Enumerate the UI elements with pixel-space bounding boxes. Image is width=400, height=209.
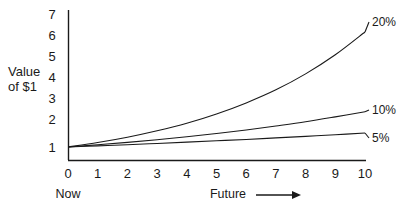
x-tick-label: 4 bbox=[183, 166, 190, 181]
y-tick-label: 3 bbox=[48, 91, 55, 106]
y-axis-title-line2: of $1 bbox=[8, 79, 37, 94]
x-tick-label: 1 bbox=[94, 166, 101, 181]
x-tick-label: 2 bbox=[124, 166, 131, 181]
y-tick-label: 4 bbox=[48, 70, 55, 85]
now-annotation: Now bbox=[55, 187, 81, 201]
chart-figure: Value of $1 7 6 5 4 3 2 1 0 1 2 3 4 5 6 … bbox=[0, 0, 400, 209]
x-tick-label: 0 bbox=[64, 166, 71, 181]
y-tick-label: 5 bbox=[48, 49, 55, 64]
x-tick-label: 7 bbox=[272, 166, 279, 181]
y-tick-label: 7 bbox=[48, 7, 55, 22]
future-annotation: Future bbox=[210, 187, 246, 201]
chart-background bbox=[0, 0, 400, 209]
series-label-10-percent: 10% bbox=[372, 103, 396, 117]
y-tick-label: 1 bbox=[48, 140, 55, 155]
x-tick-label: 5 bbox=[213, 166, 220, 181]
x-tick-label: 8 bbox=[302, 166, 309, 181]
compound-interest-chart: Value of $1 7 6 5 4 3 2 1 0 1 2 3 4 5 6 … bbox=[0, 0, 400, 209]
x-tick-label: 10 bbox=[358, 166, 372, 181]
x-tick-label: 6 bbox=[243, 166, 250, 181]
series-label-5-percent: 5% bbox=[372, 131, 390, 145]
y-tick-label: 6 bbox=[48, 28, 55, 43]
y-axis-title-line1: Value bbox=[8, 64, 40, 79]
x-tick-label: 3 bbox=[153, 166, 160, 181]
y-tick-label: 2 bbox=[48, 112, 55, 127]
x-tick-label: 9 bbox=[332, 166, 339, 181]
series-label-20-percent: 20% bbox=[372, 15, 396, 29]
